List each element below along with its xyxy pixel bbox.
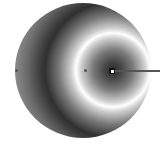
inner-radius-handle[interactable] bbox=[84, 69, 87, 72]
outer-radius-handle[interactable] bbox=[15, 69, 18, 72]
radius-line-handle[interactable] bbox=[114, 70, 160, 72]
focus-point-center bbox=[111, 70, 114, 73]
